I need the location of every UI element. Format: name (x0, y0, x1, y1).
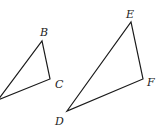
label-d: D (54, 115, 64, 128)
label-e: E (125, 8, 134, 21)
diagram-canvas: B C D E F (0, 0, 162, 132)
triangle-abc (0, 41, 50, 100)
triangle-def (67, 22, 143, 111)
label-f: F (146, 76, 155, 89)
label-c: C (55, 78, 64, 91)
label-b: B (39, 26, 48, 39)
